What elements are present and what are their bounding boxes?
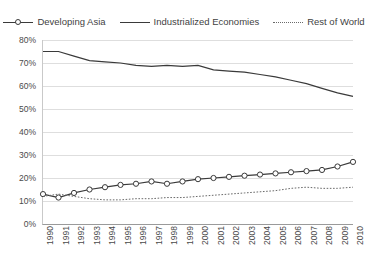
data-point-marker: [273, 171, 278, 176]
x-axis-tick-label: 2000: [201, 226, 210, 245]
x-axis-tick-label: 2007: [310, 226, 319, 245]
data-point-marker: [226, 174, 231, 179]
data-point-marker: [102, 185, 107, 190]
legend-item-industrialized-economies: Industrialized Economies: [120, 17, 260, 27]
x-axis: 1990199119921993199419951996199719981999…: [42, 226, 352, 268]
chart-legend: Developing Asia Industrialized Economies…: [0, 13, 368, 31]
y-axis-tick-label: 60%: [19, 82, 36, 91]
legend-swatch-solid-line-icon: [120, 17, 150, 27]
x-axis-tick-label: 2004: [263, 226, 272, 245]
data-point-marker: [288, 170, 293, 175]
y-axis-tick-label: 0%: [24, 220, 36, 229]
x-axis-tick-label: 1993: [93, 226, 102, 245]
legend-label-developing-asia: Developing Asia: [37, 17, 105, 27]
y-axis-tick-label: 10%: [19, 197, 36, 206]
x-axis-tick-label: 1992: [77, 226, 86, 245]
y-axis-tick-label: 30%: [19, 151, 36, 160]
data-point-marker: [180, 179, 185, 184]
x-axis-tick-label: 2009: [341, 226, 350, 245]
legend-swatch-line-marker-icon: [3, 17, 33, 27]
y-axis-tick-label: 80%: [19, 36, 36, 45]
data-point-marker: [257, 172, 262, 177]
data-point-marker: [133, 181, 138, 186]
legend-label-industrialized-economies: Industrialized Economies: [154, 17, 260, 27]
data-point-marker: [164, 181, 169, 186]
y-axis: 80%70%60%50%40%30%20%10%0%: [0, 40, 40, 224]
legend-item-rest-of-world: Rest of World: [273, 17, 364, 27]
series-line-industrialized-economies: [43, 52, 353, 97]
data-point-marker: [350, 159, 355, 164]
x-axis-tick-label: 1990: [46, 226, 55, 245]
x-axis-tick-label: 1999: [186, 226, 195, 245]
x-axis-tick-label: 1996: [139, 226, 148, 245]
x-axis-tick-label: 2002: [232, 226, 241, 245]
y-axis-tick-label: 70%: [19, 59, 36, 68]
x-axis-tick-label: 2003: [248, 226, 257, 245]
x-axis-tick-label: 2006: [294, 226, 303, 245]
x-axis-tick-label: 1995: [124, 226, 133, 245]
data-point-marker: [87, 187, 92, 192]
x-axis-tick-label: 2001: [217, 226, 226, 245]
data-point-marker: [118, 182, 123, 187]
x-axis-tick-label: 1991: [62, 226, 71, 245]
data-point-marker: [335, 164, 340, 169]
plot-lines: [43, 40, 353, 224]
legend-swatch-dotted-line-icon: [273, 17, 303, 27]
x-axis-tick-label: 1994: [108, 226, 117, 245]
chart-container: Developing Asia Industrialized Economies…: [0, 0, 368, 268]
x-axis-tick-label: 2008: [325, 226, 334, 245]
data-point-marker: [304, 169, 309, 174]
data-point-marker: [195, 177, 200, 182]
y-axis-tick-label: 20%: [19, 174, 36, 183]
data-point-marker: [71, 190, 76, 195]
data-point-marker: [56, 195, 61, 200]
x-axis-tick-label: 2005: [279, 226, 288, 245]
x-axis-tick-label: 1998: [170, 226, 179, 245]
data-point-marker: [319, 167, 324, 172]
legend-item-developing-asia: Developing Asia: [3, 17, 105, 27]
data-point-marker: [242, 173, 247, 178]
data-point-marker: [149, 179, 154, 184]
y-axis-tick-label: 50%: [19, 105, 36, 114]
x-axis-tick-label: 1997: [155, 226, 164, 245]
data-point-marker: [211, 175, 216, 180]
plot-area: [42, 40, 353, 225]
legend-label-rest-of-world: Rest of World: [307, 17, 364, 27]
y-axis-tick-label: 40%: [19, 128, 36, 137]
x-axis-tick-label: 2010: [356, 226, 365, 245]
